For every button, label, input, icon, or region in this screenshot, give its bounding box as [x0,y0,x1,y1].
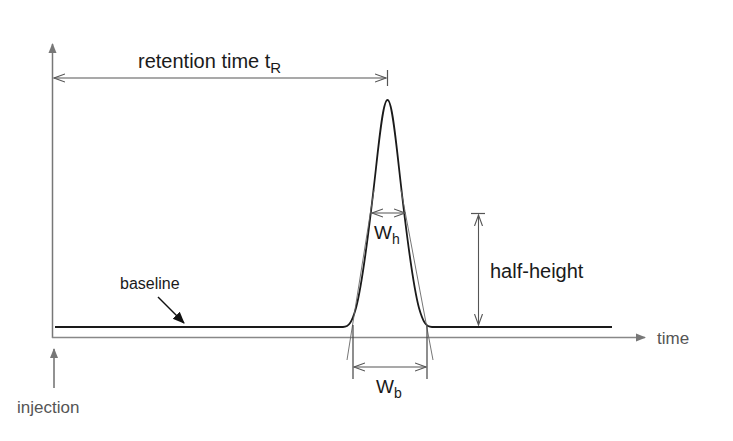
tangent-left [347,190,374,360]
baseline-arrow [158,297,184,323]
chromatogram-peak-curve [55,100,612,327]
retention-time-label: retention time tR [138,50,281,76]
baseline-label: baseline [120,275,180,292]
half-height-label: half-height [490,260,584,282]
width-base-label: Wb [376,376,402,401]
time-axis-label: time [657,329,689,348]
chromatogram-diagram: retention time tR Wh Wb half-height base… [0,0,733,441]
tangent-right [401,190,433,360]
width-half-height-label: Wh [374,222,400,247]
injection-label: injection [17,398,79,417]
